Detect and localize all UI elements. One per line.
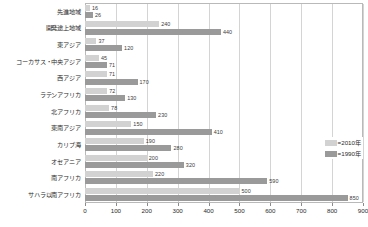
bar-value-label: 130 bbox=[125, 95, 136, 101]
bar-value-label: 320 bbox=[184, 162, 195, 168]
bar-wrap: 72 bbox=[85, 88, 363, 94]
bar bbox=[85, 145, 171, 151]
bar bbox=[85, 55, 99, 61]
x-tick-label: 700 bbox=[296, 207, 306, 214]
category-label: 北アフリカ bbox=[0, 103, 84, 120]
bar-row: 190280 bbox=[85, 136, 363, 153]
bar-wrap: 37 bbox=[85, 38, 363, 44]
bar-value-label: 200 bbox=[147, 155, 158, 161]
bar-wrap: 120 bbox=[85, 45, 363, 51]
legend-swatch-1990 bbox=[325, 151, 337, 157]
bar-value-label: 71 bbox=[107, 71, 115, 77]
bar-value-label: 120 bbox=[122, 45, 133, 51]
bar-row: 150410 bbox=[85, 120, 363, 137]
bar-wrap: 280 bbox=[85, 145, 363, 151]
x-tick bbox=[85, 203, 86, 206]
bar-group: 190280 bbox=[85, 136, 363, 153]
bar-value-label: 150 bbox=[131, 121, 142, 127]
x-tick-label: 800 bbox=[327, 207, 337, 214]
bar-value-label: 240 bbox=[159, 21, 170, 27]
bar-wrap: 170 bbox=[85, 79, 363, 85]
bar bbox=[85, 171, 153, 177]
bar-wrap: 190 bbox=[85, 138, 363, 144]
bar-row: 37120 bbox=[85, 36, 363, 53]
bar-group: 4571 bbox=[85, 53, 363, 70]
bar-group: 72130 bbox=[85, 86, 363, 103]
bar bbox=[85, 62, 107, 68]
category-label: サハラ以南アフリカ bbox=[0, 186, 84, 203]
bar-value-label: 590 bbox=[267, 178, 278, 184]
bar-group: 500850 bbox=[85, 186, 363, 203]
category-label: 西アジア bbox=[0, 70, 84, 87]
bar-value-label: 72 bbox=[107, 88, 115, 94]
bar-wrap: 16 bbox=[85, 5, 363, 11]
legend-label-2010: =2010年 bbox=[338, 138, 361, 147]
category-label: オセアニア bbox=[0, 153, 84, 170]
bar bbox=[85, 155, 147, 161]
bar-wrap: 45 bbox=[85, 55, 363, 61]
bar bbox=[85, 121, 131, 127]
bar-row: 500850 bbox=[85, 186, 363, 203]
bar bbox=[85, 38, 96, 44]
x-tick-label: 100 bbox=[111, 207, 121, 214]
bar-row: 1626 bbox=[85, 3, 363, 20]
legend-label-1990: =1990年 bbox=[338, 149, 361, 158]
category-label: 東南アジア bbox=[0, 120, 84, 137]
bar bbox=[85, 195, 348, 201]
bar-group: 200320 bbox=[85, 153, 363, 170]
chart-legend: =2010年 =1990年 bbox=[323, 137, 363, 159]
bar bbox=[85, 71, 107, 77]
bar bbox=[85, 45, 122, 51]
bar-wrap: 26 bbox=[85, 12, 363, 18]
x-axis: 0100200300400500600700800900 bbox=[85, 203, 363, 223]
bar-row: 72130 bbox=[85, 86, 363, 103]
bar-value-label: 220 bbox=[153, 171, 164, 177]
x-tick bbox=[270, 203, 271, 206]
x-tick-label: 400 bbox=[203, 207, 213, 214]
bar-wrap: 410 bbox=[85, 129, 363, 135]
bar bbox=[85, 12, 93, 18]
bar-value-label: 37 bbox=[96, 38, 104, 44]
bar-wrap: 71 bbox=[85, 62, 363, 68]
bar-wrap: 320 bbox=[85, 162, 363, 168]
bar-rows: 1626240440371204571711707213078230150410… bbox=[85, 3, 363, 203]
bar-value-label: 500 bbox=[239, 188, 250, 194]
category-axis: 先進地域開発途上地域東アジアコーカサス・中央アジア西アジアラテンアフリカ北アフリ… bbox=[0, 3, 84, 203]
bar-wrap: 71 bbox=[85, 71, 363, 77]
legend-item: =2010年 bbox=[325, 138, 361, 147]
bar-group: 37120 bbox=[85, 36, 363, 53]
bar-value-label: 45 bbox=[99, 55, 107, 61]
bar bbox=[85, 162, 184, 168]
bar bbox=[85, 129, 212, 135]
bar bbox=[85, 21, 159, 27]
category-label: 南アフリカ bbox=[0, 170, 84, 187]
x-tick bbox=[332, 203, 333, 206]
bar-wrap: 130 bbox=[85, 95, 363, 101]
category-label: 東アジア bbox=[0, 36, 84, 53]
bar-wrap: 150 bbox=[85, 121, 363, 127]
bar-value-label: 850 bbox=[348, 195, 359, 201]
bar-group: 78230 bbox=[85, 103, 363, 120]
bar-wrap: 240 bbox=[85, 21, 363, 27]
category-label: ラテンアフリカ bbox=[0, 86, 84, 103]
bar-group: 220590 bbox=[85, 170, 363, 187]
x-tick-label: 500 bbox=[234, 207, 244, 214]
x-tick-label: 300 bbox=[172, 207, 182, 214]
bar-value-label: 280 bbox=[171, 145, 182, 151]
category-label: 開発途上地域 bbox=[0, 20, 84, 37]
x-tick-label: 0 bbox=[83, 207, 86, 214]
bar-row: 78230 bbox=[85, 103, 363, 120]
bar bbox=[85, 88, 107, 94]
x-tick bbox=[178, 203, 179, 206]
bar-value-label: 190 bbox=[144, 138, 155, 144]
bar-value-label: 26 bbox=[93, 12, 101, 18]
legend-item: =1990年 bbox=[325, 149, 361, 158]
bar-row: 200320 bbox=[85, 153, 363, 170]
x-tick-label: 600 bbox=[265, 207, 275, 214]
bar-row: 4571 bbox=[85, 53, 363, 70]
x-tick-label: 900 bbox=[358, 207, 368, 214]
x-tick bbox=[116, 203, 117, 206]
bar-wrap: 220 bbox=[85, 171, 363, 177]
bar-value-label: 440 bbox=[221, 29, 232, 35]
